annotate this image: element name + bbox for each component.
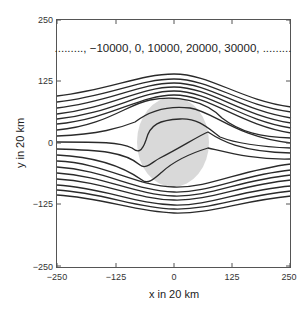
x-axis-label: x in 20 km [149, 288, 199, 300]
streamline [57, 195, 291, 213]
y-tick-label: 125 [38, 76, 53, 86]
y-tick-label: 0 [48, 138, 53, 148]
x-tick-label: −250 [47, 272, 67, 282]
y-tick-label: −250 [33, 262, 53, 272]
x-tick-label: 0 [171, 272, 176, 282]
y-axis-label: y in 20 km [14, 118, 26, 168]
x-tick-label: 125 [224, 272, 239, 282]
x-tick-label: −125 [106, 272, 126, 282]
y-tick-label: −125 [33, 199, 53, 209]
y-tick-label: 250 [38, 15, 53, 25]
x-tick-label: 250 [281, 272, 296, 282]
chart: −250 −125 0 125 250 250 125 0 −125 −250 … [0, 0, 308, 313]
contour-values-annotation: ........., −10000, 0, 10000, 20000, 3000… [55, 42, 292, 54]
